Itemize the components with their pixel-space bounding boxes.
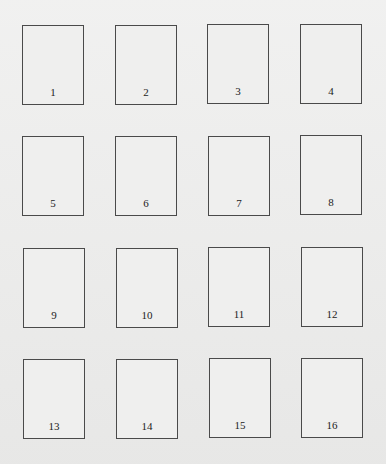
box-2: 2: [115, 25, 177, 105]
box-9: 9: [23, 248, 85, 328]
box-label: 7: [209, 197, 269, 209]
box-label: 11: [209, 308, 269, 320]
box-label: 10: [117, 309, 177, 321]
box-label: 12: [302, 308, 362, 320]
box-label: 2: [116, 86, 176, 98]
box-label: 6: [116, 197, 176, 209]
box-12: 12: [301, 247, 363, 327]
box-7: 7: [208, 136, 270, 216]
box-label: 9: [24, 309, 84, 321]
page-sheet: 1 2 3 4 5 6 7 8 9 10 11 12 13 14 15 16: [0, 0, 386, 464]
box-15: 15: [209, 358, 271, 438]
box-label: 13: [24, 420, 84, 432]
box-1: 1: [22, 25, 84, 105]
box-6: 6: [115, 136, 177, 216]
box-label: 3: [208, 85, 268, 97]
box-3: 3: [207, 24, 269, 104]
box-8: 8: [300, 135, 362, 215]
box-label: 14: [117, 420, 177, 432]
box-13: 13: [23, 359, 85, 439]
box-11: 11: [208, 247, 270, 327]
box-label: 4: [301, 85, 361, 97]
box-label: 16: [302, 419, 362, 431]
box-label: 15: [210, 419, 270, 431]
box-4: 4: [300, 24, 362, 104]
box-label: 5: [23, 197, 83, 209]
box-14: 14: [116, 359, 178, 439]
box-16: 16: [301, 358, 363, 438]
box-label: 8: [301, 196, 361, 208]
box-label: 1: [23, 86, 83, 98]
box-5: 5: [22, 136, 84, 216]
box-10: 10: [116, 248, 178, 328]
